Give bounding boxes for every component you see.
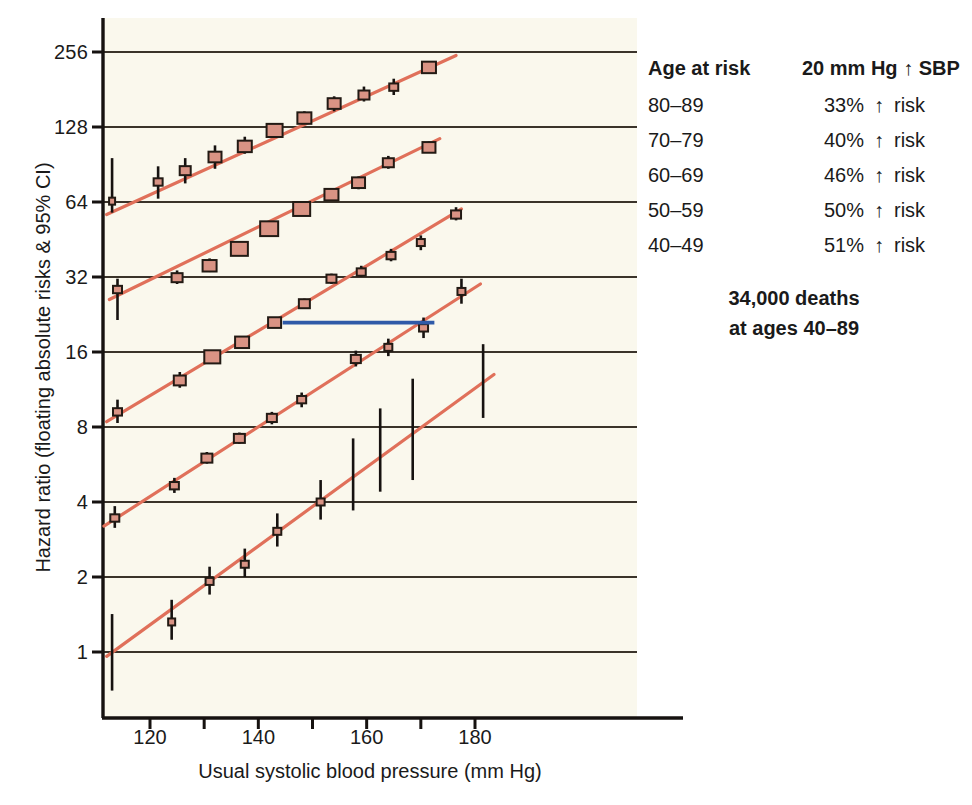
data-point-70-79 xyxy=(113,286,122,293)
data-point-40-49 xyxy=(273,528,281,535)
up-arrow-icon: ↑ xyxy=(864,199,894,234)
data-point-80-89 xyxy=(389,83,398,90)
data-point-60-69 xyxy=(235,337,249,348)
up-arrow-icon: ↑ xyxy=(864,234,894,269)
x-axis-title: Usual systolic blood pressure (mm Hg) xyxy=(103,760,637,783)
data-point-40-49 xyxy=(206,578,214,585)
data-point-60-69 xyxy=(204,350,220,363)
data-point-70-79 xyxy=(260,221,278,236)
legend-row-age: 60–69 xyxy=(648,164,802,199)
trend-line-60-69 xyxy=(107,209,462,422)
data-point-60-69 xyxy=(113,408,122,415)
legend-row: 50–5950%↑risk xyxy=(648,199,960,234)
legend-row-risk-label: risk xyxy=(894,164,960,199)
data-point-50-59 xyxy=(267,414,277,422)
data-point-50-59 xyxy=(457,288,465,295)
data-point-80-89 xyxy=(267,124,283,137)
y-axis-tick-label: 128 xyxy=(54,116,88,139)
y-axis-tick-label: 64 xyxy=(65,191,88,214)
legend-row-value: 46% xyxy=(802,164,864,199)
data-point-60-69 xyxy=(417,239,425,246)
data-point-80-89 xyxy=(328,98,341,109)
data-point-60-69 xyxy=(268,317,281,328)
chart-figure: 1248163264128256 120140160180 Usual syst… xyxy=(0,0,972,805)
trend-line-40-49 xyxy=(107,374,494,656)
legend-row: 40–4951%↑risk xyxy=(648,234,960,269)
data-point-80-89 xyxy=(422,62,436,73)
legend-row-age: 50–59 xyxy=(648,199,802,234)
data-point-80-89 xyxy=(109,198,115,205)
data-point-50-59 xyxy=(110,514,119,521)
up-arrow-icon: ↑ xyxy=(864,129,894,164)
y-axis-tick-label: 1 xyxy=(77,641,88,664)
legend-body: 80–8933%↑risk70–7940%↑risk60–6946%↑risk5… xyxy=(648,94,960,269)
x-axis-tick-label: 140 xyxy=(242,726,275,749)
y-axis-title: Hazard ratio (floating absolute risks & … xyxy=(32,63,55,673)
x-axis-tick-label: 180 xyxy=(458,726,491,749)
chart-svg xyxy=(0,0,700,805)
legend-table: Age at risk 20 mm Hg ↑ SBP 80–8933%↑risk… xyxy=(648,57,960,269)
data-point-60-69 xyxy=(326,275,336,283)
data-point-60-69 xyxy=(451,210,461,218)
y-axis-tick-label: 2 xyxy=(77,566,88,589)
legend-row-risk-label: risk xyxy=(894,94,960,129)
data-point-70-79 xyxy=(383,158,394,167)
data-point-80-89 xyxy=(297,112,311,123)
data-point-50-59 xyxy=(234,434,245,443)
y-axis-tick-label: 32 xyxy=(65,266,88,289)
y-axis-tick-label: 8 xyxy=(77,416,88,439)
legend-row-risk-label: risk xyxy=(894,129,960,164)
y-axis-tick-label: 4 xyxy=(77,491,88,514)
legend-footer: 34,000 deaths at ages 40–89 xyxy=(648,283,966,343)
data-point-60-69 xyxy=(299,299,310,308)
data-point-60-69 xyxy=(174,376,186,386)
data-point-50-59 xyxy=(419,324,428,331)
x-axis-tick-labels: 120140160180 xyxy=(0,726,700,756)
data-point-50-59 xyxy=(201,454,212,463)
data-point-70-79 xyxy=(293,202,310,216)
data-point-70-79 xyxy=(172,273,183,282)
legend-row: 80–8933%↑risk xyxy=(648,94,960,129)
data-point-70-79 xyxy=(324,189,338,200)
legend-header-age: Age at risk xyxy=(648,57,802,94)
data-point-80-89 xyxy=(238,141,252,152)
plot-container: 1248163264128256 120140160180 Usual syst… xyxy=(0,0,700,805)
up-arrow-icon: ↑ xyxy=(864,164,894,199)
x-axis-tick-label: 160 xyxy=(350,726,383,749)
legend-header-effect: 20 mm Hg ↑ SBP xyxy=(802,57,960,94)
y-axis-tick-label: 256 xyxy=(54,41,88,64)
legend-row-risk-label: risk xyxy=(894,199,960,234)
legend-row-age: 70–79 xyxy=(648,129,802,164)
legend-panel: Age at risk 20 mm Hg ↑ SBP 80–8933%↑risk… xyxy=(648,57,966,343)
data-point-70-79 xyxy=(422,142,435,153)
legend-footer-line-2: at ages 40–89 xyxy=(648,313,940,343)
up-arrow-icon: ↑ xyxy=(864,94,894,129)
legend-footer-line-1: 34,000 deaths xyxy=(648,283,940,313)
legend-row-age: 40–49 xyxy=(648,234,802,269)
data-point-80-89 xyxy=(358,91,369,100)
data-point-70-79 xyxy=(203,260,217,271)
data-point-50-59 xyxy=(384,344,392,351)
data-point-70-79 xyxy=(352,177,365,188)
data-point-40-49 xyxy=(168,618,175,625)
legend-row-value: 33% xyxy=(802,94,864,129)
data-point-50-59 xyxy=(351,355,361,363)
legend-row: 70–7940%↑risk xyxy=(648,129,960,164)
data-point-50-59 xyxy=(297,396,306,403)
legend-row: 60–6946%↑risk xyxy=(648,164,960,199)
legend-row-age: 80–89 xyxy=(648,94,802,129)
data-point-80-89 xyxy=(154,178,163,185)
data-point-70-79 xyxy=(231,242,248,256)
data-point-80-89 xyxy=(209,152,222,163)
data-point-80-89 xyxy=(180,166,191,175)
legend-header-row: Age at risk 20 mm Hg ↑ SBP xyxy=(648,57,960,94)
legend-row-value: 51% xyxy=(802,234,864,269)
data-point-60-69 xyxy=(387,252,396,259)
data-point-40-49 xyxy=(241,561,249,568)
data-point-60-69 xyxy=(357,268,366,275)
y-axis-tick-label: 16 xyxy=(65,341,88,364)
data-point-50-59 xyxy=(170,482,179,489)
legend-row-risk-label: risk xyxy=(894,234,960,269)
legend-row-value: 50% xyxy=(802,199,864,234)
data-point-40-49 xyxy=(317,499,325,506)
